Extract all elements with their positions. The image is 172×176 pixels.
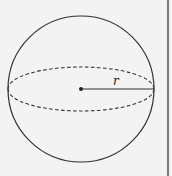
radius-label: r	[113, 74, 120, 88]
equator-back-dashed	[8, 67, 154, 89]
equator-front-dashed	[8, 89, 154, 111]
center-point	[79, 87, 83, 91]
sphere-diagram: r	[0, 0, 172, 176]
